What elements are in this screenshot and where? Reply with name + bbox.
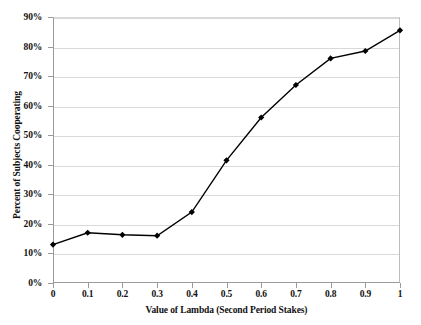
y-tick-label: 50% (24, 130, 42, 140)
x-axis-tick-labels: 00.10.20.30.40.50.60.70.80.91 (53, 289, 400, 305)
y-tick-label: 90% (24, 12, 42, 22)
x-tick-label: 0.1 (82, 289, 93, 299)
y-tick-label: 60% (24, 101, 42, 111)
x-tick-label: 0 (51, 289, 56, 299)
data-series-cooperation (53, 17, 400, 283)
x-tick-label: 0.5 (221, 289, 232, 299)
x-tick-label: 0.2 (117, 289, 128, 299)
x-tick-mark (53, 283, 54, 288)
x-tick-label: 0.7 (290, 289, 301, 299)
x-tick-mark (192, 283, 193, 288)
y-axis-tick-labels: 0%10%20%30%40%50%60%70%80%90% (0, 17, 48, 283)
x-tick-mark (227, 283, 228, 288)
x-tick-mark (122, 283, 123, 288)
y-tick-label: 10% (24, 248, 42, 258)
y-tick-label: 70% (24, 71, 42, 81)
x-tick-mark (400, 283, 401, 288)
x-axis-title: Value of Lambda (Second Period Stakes) (53, 305, 400, 315)
data-point-marker (362, 48, 368, 54)
data-point-marker (397, 27, 403, 33)
x-tick-mark (88, 283, 89, 288)
y-tick-label: 0% (28, 278, 42, 288)
x-tick-label: 1 (398, 289, 403, 299)
data-point-marker (85, 230, 91, 236)
x-tick-mark (261, 283, 262, 288)
y-tick-label: 40% (24, 160, 42, 170)
x-tick-label: 0.9 (360, 289, 371, 299)
x-tick-label: 0.8 (325, 289, 336, 299)
series-line (53, 30, 400, 244)
x-tick-mark (365, 283, 366, 288)
chart-figure: Percent of Subjects Cooperating 0%10%20%… (0, 0, 421, 325)
x-tick-mark (296, 283, 297, 288)
x-tick-label: 0.3 (151, 289, 162, 299)
y-tick-label: 20% (24, 219, 42, 229)
x-tick-label: 0.6 (256, 289, 267, 299)
y-tick-label: 80% (24, 42, 42, 52)
x-tick-label: 0.4 (186, 289, 197, 299)
x-tick-mark (331, 283, 332, 288)
data-point-marker (50, 241, 56, 247)
y-tick-label: 30% (24, 189, 42, 199)
data-point-marker (119, 232, 125, 238)
x-tick-mark (157, 283, 158, 288)
